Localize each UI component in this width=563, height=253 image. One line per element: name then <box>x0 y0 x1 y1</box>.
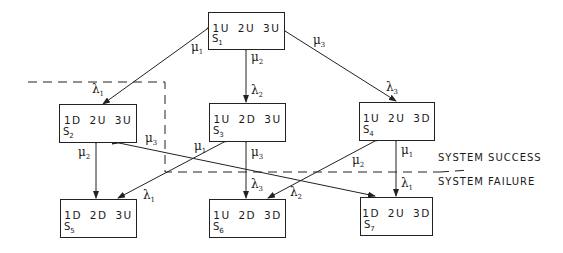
state-s4: 1U 2U 3D S4 <box>359 102 435 141</box>
rate-mu2-s1-s3: μ2 <box>251 50 263 66</box>
state-status: 1U 2D 3D <box>210 209 285 221</box>
rate-lambda2-s1-s3: λ2 <box>251 83 263 99</box>
state-label: S3 <box>213 125 224 139</box>
state-s5: 1D 2D 3U S5 <box>60 199 137 238</box>
state-label: S2 <box>63 126 74 140</box>
state-status: 1U 2U 3D <box>360 112 434 124</box>
rate-mu3-s2-s7: μ3 <box>145 131 157 147</box>
rate-lambda1-s1-s2: λ1 <box>92 82 104 98</box>
state-status: 1D 2D 3U <box>61 209 136 221</box>
arrow-s4-s6 <box>268 141 375 198</box>
rate-lambda3-s1-s4: λ3 <box>386 80 398 96</box>
state-status: 1D 2U 3U <box>60 114 136 126</box>
rate-mu2-s2-s5: μ2 <box>78 145 90 161</box>
state-s2: 1D 2U 3U S2 <box>59 104 137 143</box>
rate-lambda3-s3-s6: λ3 <box>251 177 263 193</box>
state-label: S1 <box>212 33 223 47</box>
rate-mu3-s3-s6: μ3 <box>251 145 263 161</box>
system-success-label: SYSTEM SUCCESS <box>438 152 542 163</box>
state-label: S5 <box>64 221 75 235</box>
rate-mu1-s4-s7: μ1 <box>401 143 413 159</box>
state-status: 1U 2D 3U <box>210 113 285 125</box>
arrow-s1-s4 <box>285 31 396 101</box>
rate-mu2-s4-s6: μ2 <box>352 153 364 169</box>
state-s7: 1D 2U 3D S7 <box>360 197 433 236</box>
state-label: S4 <box>363 124 374 138</box>
state-label: S6 <box>213 221 224 235</box>
arrow-s3-s5 <box>118 142 224 198</box>
system-failure-label: SYSTEM FAILURE <box>438 176 535 187</box>
rate-mu1-s3-s5: μ1 <box>194 139 206 155</box>
rate-lambda1-s4-s7: λ1 <box>401 176 413 192</box>
rate-mu1-s1-s2: μ1 <box>191 40 203 56</box>
rate-lambda2-s4-s6: λ2 <box>290 185 302 201</box>
state-s1: 1U 2U 3U S1 <box>208 12 285 50</box>
state-status: 1D 2U 3D <box>361 207 432 219</box>
state-s6: 1U 2D 3D S6 <box>209 199 286 238</box>
rate-lambda1-s3-s5: λ1 <box>143 188 155 204</box>
state-s3: 1U 2D 3U S3 <box>209 103 286 142</box>
arrow-s2-s7 <box>119 143 375 196</box>
rate-mu3-s1-s4: μ3 <box>313 33 325 49</box>
state-label: S7 <box>364 219 375 233</box>
